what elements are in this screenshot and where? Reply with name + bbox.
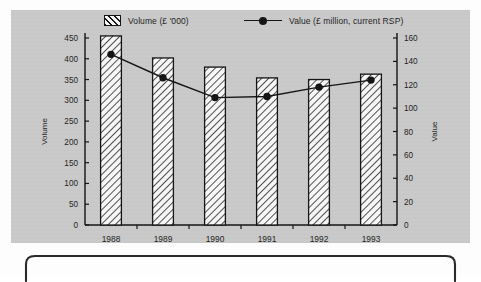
svg-text:100: 100	[404, 104, 418, 113]
page-decorative-frame	[22, 252, 459, 282]
bar-1992	[309, 80, 330, 225]
svg-text:1993: 1993	[362, 234, 381, 243]
svg-text:1992: 1992	[310, 234, 329, 243]
svg-text:1990: 1990	[206, 234, 225, 243]
svg-text:20: 20	[404, 198, 414, 207]
svg-text:100: 100	[64, 179, 78, 188]
svg-text:160: 160	[404, 34, 418, 43]
category-axis-ticks: 198819891990199119921993	[102, 225, 381, 243]
bar-series-volume	[101, 36, 382, 225]
svg-text:450: 450	[64, 34, 78, 43]
svg-text:120: 120	[404, 81, 418, 90]
marker-1991	[263, 93, 270, 100]
left-axis-title: Volume	[40, 118, 49, 145]
line-markers-value	[107, 51, 374, 102]
svg-text:350: 350	[64, 76, 78, 85]
svg-text:200: 200	[64, 138, 78, 147]
chart-panel: Volume (£ '000) Value (£ million, curren…	[11, 10, 470, 243]
bar-1988	[101, 36, 122, 225]
svg-text:1989: 1989	[154, 234, 173, 243]
svg-text:140: 140	[404, 57, 418, 66]
svg-text:300: 300	[64, 96, 78, 105]
svg-text:1988: 1988	[102, 234, 121, 243]
marker-1992	[315, 83, 322, 90]
svg-text:0: 0	[404, 221, 409, 230]
line-series-value	[111, 54, 371, 97]
marker-1988	[107, 51, 114, 58]
right-axis-title: Value	[430, 121, 439, 141]
svg-text:150: 150	[64, 159, 78, 168]
axis-lines	[85, 33, 397, 225]
marker-1990	[211, 94, 218, 101]
bar-1990	[205, 67, 226, 225]
marker-1993	[367, 76, 374, 83]
chart-svg: 050100150200250300350400450 020406080100…	[11, 10, 470, 243]
svg-text:60: 60	[404, 151, 414, 160]
svg-text:400: 400	[64, 55, 78, 64]
bar-1989	[153, 58, 174, 225]
svg-text:80: 80	[404, 128, 414, 137]
marker-1989	[159, 74, 166, 81]
svg-text:50: 50	[69, 200, 79, 209]
svg-text:1991: 1991	[258, 234, 277, 243]
bar-1993	[361, 74, 382, 225]
svg-text:40: 40	[404, 174, 414, 183]
svg-text:250: 250	[64, 117, 78, 126]
svg-text:0: 0	[73, 221, 78, 230]
plot-area: 050100150200250300350400450 020406080100…	[11, 10, 470, 243]
